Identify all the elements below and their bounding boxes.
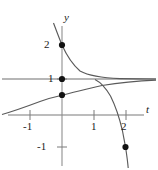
marked-point-0-1 [59,76,65,82]
figure-canvas: 2 1 -1 -1 1 2 y t [0,0,158,170]
t-axis-tick-label-2: 2 [121,121,127,132]
curve-lower-branch [2,80,156,114]
t-axis-tick-label-1: 1 [91,121,97,132]
y-axis-tick-label-neg1: -1 [37,141,46,152]
y-axis-tick-label-1: 1 [48,73,54,84]
graph-plot [0,0,158,170]
marked-point-0-2 [59,42,65,48]
marked-point-2-neg1 [122,144,128,150]
t-axis-tick-label-neg1: -1 [23,121,32,132]
t-axis-name-label: t [146,104,149,115]
y-axis-tick-label-2: 2 [44,39,50,50]
y-axis-name-label: y [64,12,69,23]
curve-upper-branch [54,23,157,79]
marked-point-0-0.6 [59,92,65,98]
